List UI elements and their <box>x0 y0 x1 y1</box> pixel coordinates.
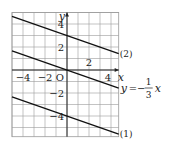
fraction-numerator: 1 <box>146 77 152 87</box>
y-tick-label: −2 <box>49 88 64 99</box>
x-tick-label: 4 <box>105 72 111 83</box>
equation-operator: =− <box>129 83 146 94</box>
y-axis-arrow-icon <box>65 13 69 17</box>
equation-var-y: y <box>120 82 128 95</box>
coordinate-graph: −4−22442−2−4Oxy(2)y=−13x(1) <box>0 0 176 148</box>
y-axis-label: y <box>58 10 66 23</box>
series-label: (2) <box>120 49 133 59</box>
line-series-2 <box>12 97 119 134</box>
x-tick-label: 2 <box>86 57 92 68</box>
y-tick-label: 2 <box>58 42 64 53</box>
series-label: (1) <box>120 129 133 139</box>
y-tick-label: −4 <box>49 111 64 122</box>
equation-var-x: x <box>155 82 162 95</box>
origin-label: O <box>56 72 64 83</box>
line-series-0 <box>12 16 119 53</box>
fraction-denominator: 3 <box>146 90 152 100</box>
x-tick-label: −2 <box>38 72 53 83</box>
x-tick-label: −4 <box>16 72 31 83</box>
axis-labels: −4−22442−2−4Oxy(2)y=−13x(1) <box>16 10 162 140</box>
